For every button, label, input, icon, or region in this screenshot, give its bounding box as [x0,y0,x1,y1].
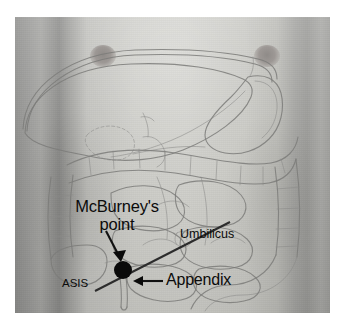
mcburney-arrow-head [113,250,126,262]
appendix-arrow-head [133,276,143,286]
label-mcburney-line2: point [62,216,172,234]
mcburney-point-figure: McBurney's point Umbilicus ASIS Appendix [0,0,348,330]
mcburney-point-dot [114,261,132,279]
label-appendix: Appendix [166,271,231,288]
label-umbilicus: Umbilicus [180,228,234,242]
label-asis: ASIS [62,277,88,289]
label-mcburney-line1: McBurney's [62,198,172,216]
label-mcburney-point: McBurney's point [62,198,172,234]
